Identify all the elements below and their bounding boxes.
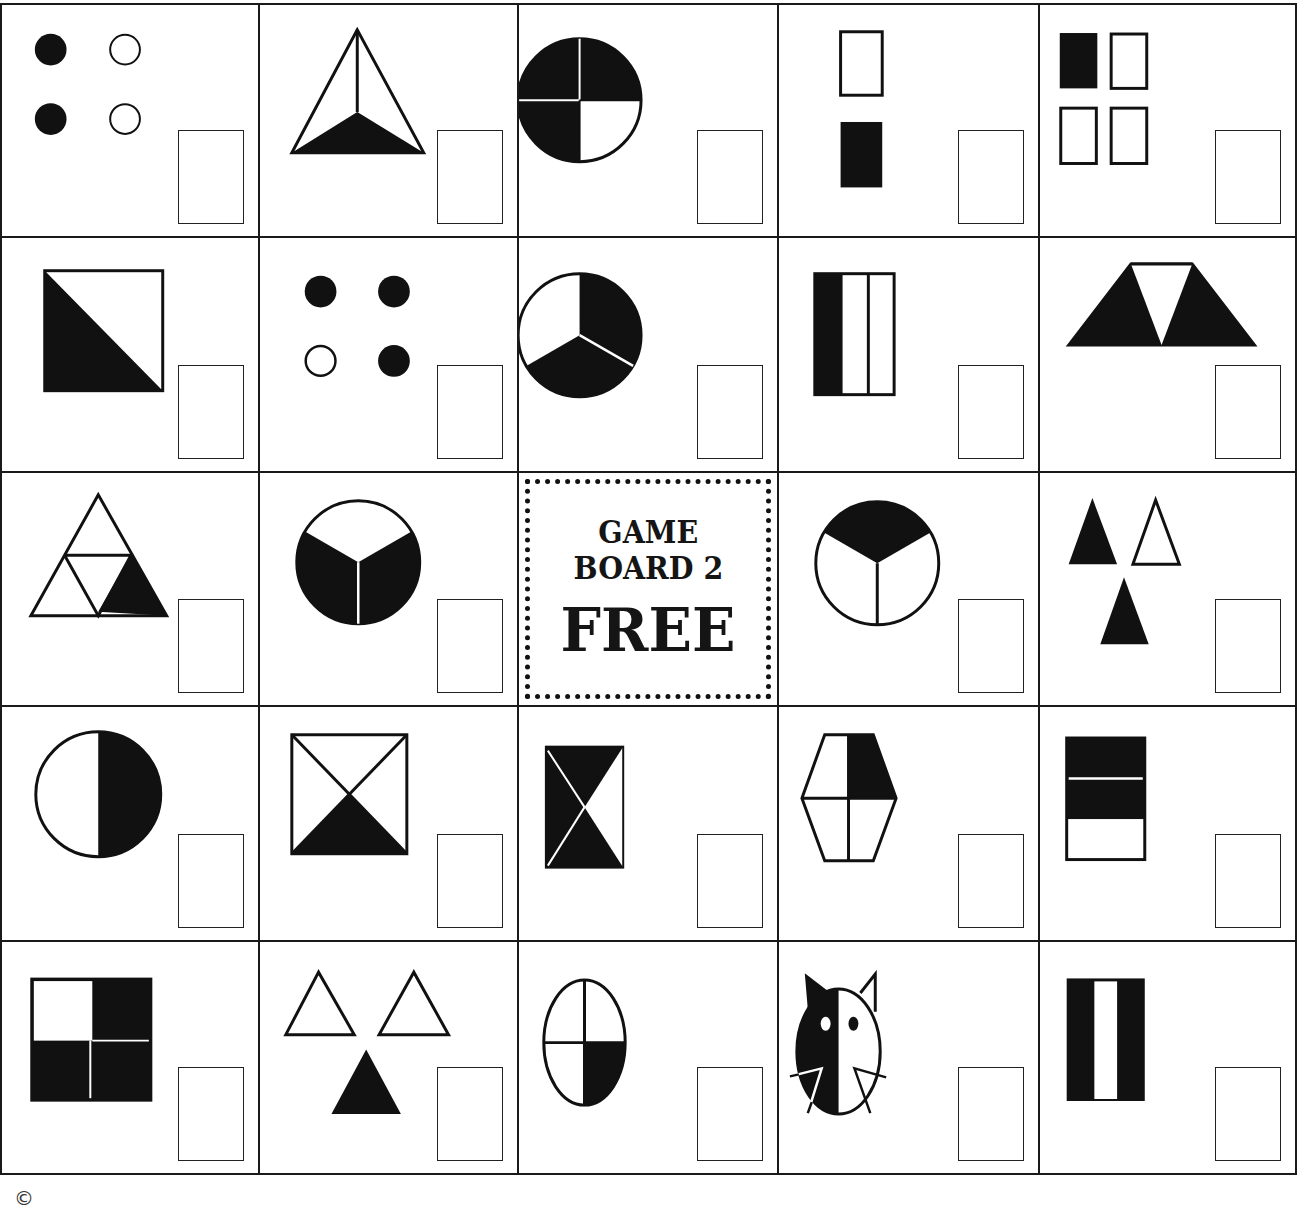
board-cell-r2c2[interactable] (260, 238, 519, 473)
marker-box[interactable] (437, 599, 503, 693)
board-cell-r4c4[interactable] (779, 707, 1040, 942)
board-cell-r3c5[interactable] (1040, 473, 1295, 707)
marker-box[interactable] (1215, 365, 1281, 459)
marker-box[interactable] (958, 365, 1024, 459)
board-cell-r4c1[interactable] (2, 707, 260, 942)
board-cell-r4c2[interactable] (260, 707, 519, 942)
free-space-title-line-1: GAME (598, 514, 698, 550)
free-space-title-line-2: BOARD 2 (573, 550, 723, 586)
marker-box[interactable] (958, 130, 1024, 224)
board-cell-r2c3[interactable] (519, 238, 779, 473)
board-cell-r3c3-free[interactable]: GAME BOARD 2 FREE (519, 473, 779, 707)
marker-box[interactable] (178, 1067, 244, 1161)
board-cell-r5c3[interactable] (519, 942, 779, 1173)
board-cell-r5c2[interactable] (260, 942, 519, 1173)
marker-box[interactable] (697, 365, 763, 459)
marker-box[interactable] (697, 130, 763, 224)
board-cell-r4c5[interactable] (1040, 707, 1295, 942)
marker-box[interactable] (958, 599, 1024, 693)
marker-box[interactable] (178, 599, 244, 693)
board-cell-r2c1[interactable] (2, 238, 260, 473)
board-cell-r5c1[interactable] (2, 942, 260, 1173)
board-cell-r5c5[interactable] (1040, 942, 1295, 1173)
board-cell-r2c5[interactable] (1040, 238, 1295, 473)
free-space-label: FREE (561, 596, 736, 664)
marker-box[interactable] (697, 834, 763, 928)
marker-box[interactable] (437, 130, 503, 224)
board-cell-r3c1[interactable] (2, 473, 260, 707)
board-cell-r3c2[interactable] (260, 473, 519, 707)
marker-box[interactable] (437, 834, 503, 928)
copyright-symbol: © (14, 1186, 34, 1210)
board-cell-r5c4[interactable] (779, 942, 1040, 1173)
marker-box[interactable] (958, 1067, 1024, 1161)
board-cell-r1c3[interactable] (519, 5, 779, 238)
board-cell-r1c4[interactable] (779, 5, 1040, 238)
marker-box[interactable] (958, 834, 1024, 928)
board-cell-r1c2[interactable] (260, 5, 519, 238)
marker-box[interactable] (1215, 834, 1281, 928)
marker-box[interactable] (1215, 599, 1281, 693)
marker-box[interactable] (697, 1067, 763, 1161)
marker-box[interactable] (1215, 1067, 1281, 1161)
board-cell-r4c3[interactable] (519, 707, 779, 942)
board-cell-r1c1[interactable] (2, 5, 260, 238)
free-space: GAME BOARD 2 FREE (525, 479, 771, 699)
marker-box[interactable] (437, 1067, 503, 1161)
board-cell-r1c5[interactable] (1040, 5, 1295, 238)
board-cell-r2c4[interactable] (779, 238, 1040, 473)
board-cell-r3c4[interactable] (779, 473, 1040, 707)
marker-box[interactable] (437, 365, 503, 459)
marker-box[interactable] (178, 365, 244, 459)
marker-box[interactable] (178, 834, 244, 928)
marker-box[interactable] (178, 130, 244, 224)
game-board: GAME BOARD 2 FREE (0, 3, 1297, 1175)
marker-box[interactable] (1215, 130, 1281, 224)
